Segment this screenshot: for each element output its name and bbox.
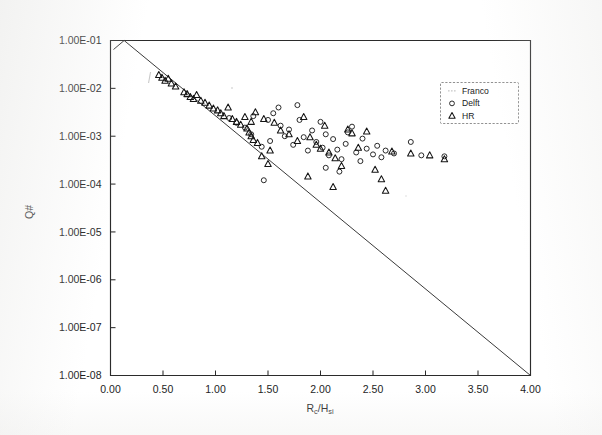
x-tick-label: 0.50 — [153, 383, 174, 395]
legend-label-hr: HR — [462, 111, 474, 121]
x-tick-label: 0.00 — [100, 383, 121, 395]
y-tick-label: 1.00E-05 — [59, 226, 102, 238]
y-tick-label: 1.00E-08 — [59, 369, 102, 381]
chart-canvas: 1.00E-011.00E-021.00E-031.00E-041.00E-05… — [0, 0, 602, 435]
x-tick-label: 4.00 — [520, 383, 541, 395]
y-tick-label: 1.00E-02 — [59, 82, 102, 94]
overtopping-scatter-figure: 1.00E-011.00E-021.00E-031.00E-041.00E-05… — [0, 0, 602, 435]
y-tick-label: 1.00E-03 — [59, 130, 102, 142]
legend-label-delft: Delft — [462, 98, 480, 108]
y-axis-title: Q# — [23, 205, 35, 219]
y-tick-label: 1.00E-01 — [59, 34, 102, 46]
x-tick-label: 1.00 — [205, 383, 226, 395]
y-axis-title-text: Q# — [23, 205, 35, 219]
legend-label-franco: Franco — [462, 86, 489, 96]
x-tick-label: 3.50 — [468, 383, 489, 395]
chart-legend: FrancoDelftHR — [441, 83, 519, 124]
x-tick-label: 3.00 — [415, 383, 436, 395]
y-tick-label: 1.00E-06 — [59, 273, 102, 285]
x-tick-label: 2.00 — [310, 383, 331, 395]
x-tick-label: 2.50 — [363, 383, 384, 395]
x-tick-label: 1.50 — [258, 383, 279, 395]
y-tick-label: 1.00E-04 — [59, 178, 102, 190]
y-tick-label: 1.00E-07 — [59, 321, 102, 333]
